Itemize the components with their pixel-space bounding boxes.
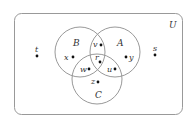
element-dot-y — [125, 56, 128, 59]
element-dot-v — [100, 44, 103, 47]
element-label-v: v — [93, 40, 98, 49]
element-dot-w — [88, 68, 91, 71]
element-label-w: w — [80, 65, 87, 74]
universe-label: U — [169, 20, 177, 30]
set-label-a: A — [116, 38, 124, 48]
element-dot-z — [97, 81, 100, 84]
element-dot-x — [72, 56, 75, 59]
element-dot-t — [36, 55, 39, 58]
element-label-x: x — [64, 53, 69, 62]
set-label-b: B — [72, 38, 80, 48]
element-label-z: z — [90, 77, 96, 86]
venn-diagram: U B A C t s x y v r w u z — [0, 0, 189, 117]
set-label-c: C — [95, 90, 102, 100]
element-label-y: y — [128, 53, 134, 62]
element-dot-s — [154, 54, 157, 57]
element-label-u: u — [107, 65, 112, 74]
element-label-t: t — [35, 45, 39, 54]
element-label-s: s — [153, 44, 157, 53]
element-dot-u — [114, 68, 117, 71]
element-dot-r — [99, 61, 102, 64]
